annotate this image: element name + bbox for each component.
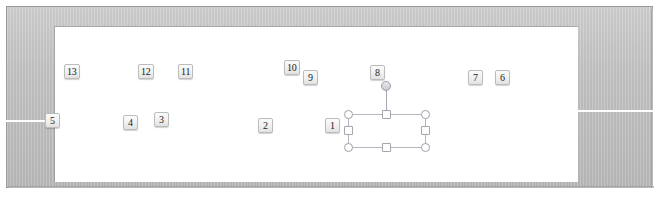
rotate-handle[interactable] (381, 81, 391, 91)
callout-3: 3 (154, 112, 169, 127)
right-guide-line (576, 110, 657, 112)
callout-1: 1 (325, 118, 340, 133)
handle-top-right[interactable] (421, 110, 430, 119)
window-frame-bottom-shadow (9, 186, 654, 188)
window-frame-right-shadow (651, 9, 653, 188)
handle-top-left[interactable] (344, 110, 353, 119)
handle-top-center[interactable] (382, 110, 391, 119)
screenshot-root: 13121110987654321 (0, 0, 659, 208)
callout-4: 4 (123, 115, 138, 130)
handle-bottom-right[interactable] (421, 143, 430, 152)
handle-bottom-center[interactable] (382, 143, 391, 152)
handle-middle-left[interactable] (344, 126, 353, 135)
callout-7: 7 (468, 70, 483, 85)
handle-bottom-left[interactable] (344, 143, 353, 152)
callout-6: 6 (495, 70, 510, 85)
handle-middle-right[interactable] (421, 126, 430, 135)
callout-9: 9 (303, 70, 318, 85)
callout-8: 8 (370, 65, 385, 80)
callout-13: 13 (64, 64, 80, 79)
callout-10: 10 (284, 60, 300, 75)
callout-12: 12 (138, 64, 154, 79)
document-canvas[interactable] (55, 27, 578, 182)
callout-5: 5 (45, 113, 60, 128)
callout-2: 2 (258, 118, 273, 133)
callout-11: 11 (178, 64, 193, 79)
